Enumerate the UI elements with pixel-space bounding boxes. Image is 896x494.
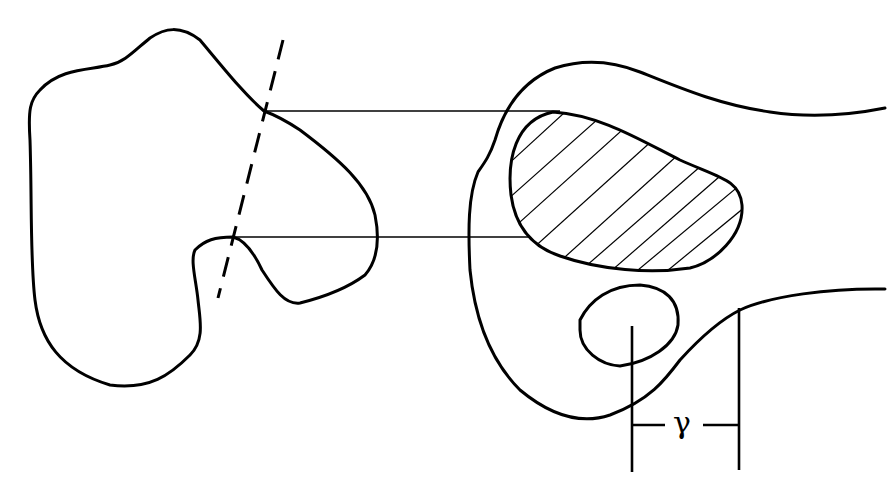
hatched-region-outline (510, 112, 742, 271)
cutting-plane-line (218, 40, 283, 298)
dimension-label-gamma: γ (673, 408, 691, 438)
left-profile-outline (29, 30, 377, 386)
diagram-canvas (0, 0, 896, 494)
small-oval-outline (580, 285, 678, 366)
